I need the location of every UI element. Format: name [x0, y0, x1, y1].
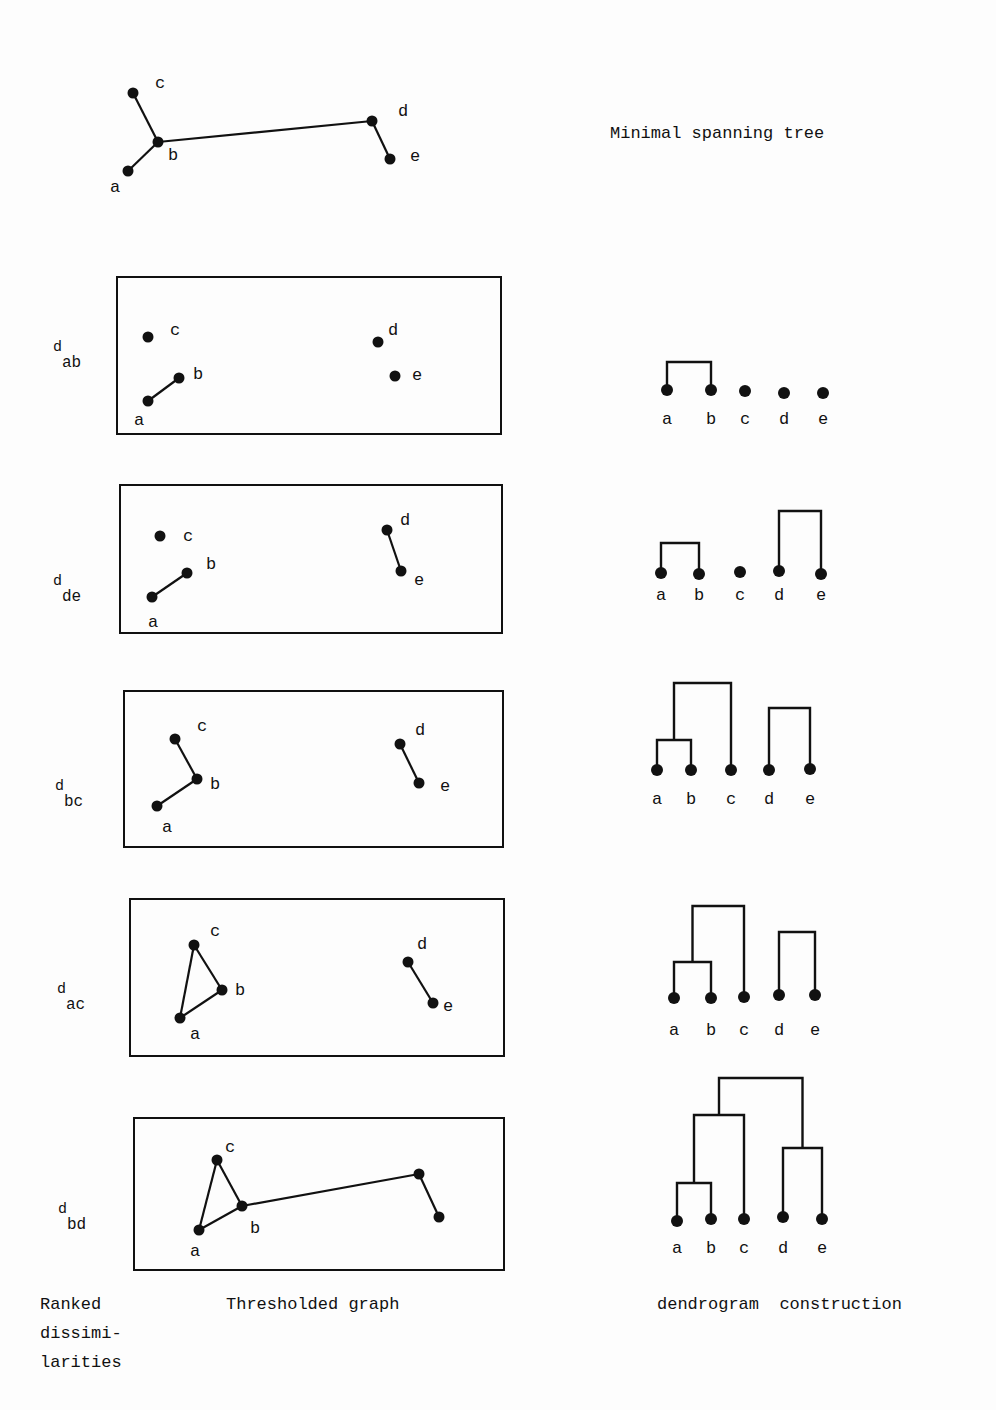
leaf-label-c: c: [726, 790, 736, 809]
threshold-label-ab: dab: [53, 338, 81, 356]
edge-ac: [199, 1160, 217, 1230]
leaf-label-c: c: [739, 1021, 749, 1040]
edge-bd: [242, 1174, 419, 1206]
edge-bc: [175, 739, 197, 779]
diagram-canvas: abcde abcdeabcdeabcdeabcdeabc abcdeabcde…: [0, 0, 996, 1410]
leaf-e: [809, 989, 821, 1001]
leaf-a: [671, 1215, 683, 1227]
merge-ab-c: [693, 906, 745, 997]
dendrogram-bd: abcde: [671, 1078, 828, 1258]
dissimilarity-subscript: bc: [64, 793, 83, 811]
leaf-e: [804, 763, 816, 775]
leaf-label-d: d: [764, 790, 774, 809]
leaf-label-d: d: [778, 1239, 788, 1258]
leaf-c: [738, 991, 750, 1003]
threshold-panel-ab: abcde: [117, 277, 501, 434]
leaf-b: [693, 568, 705, 580]
thresholded-graph-de: abcde: [147, 511, 425, 632]
leaf-c: [738, 1213, 750, 1225]
leaf-label-e: e: [818, 410, 828, 429]
node-a: [143, 396, 154, 407]
footer-dendrogram-construction: dendrogram construction: [657, 1290, 902, 1319]
dissimilarity-symbol: d: [58, 1201, 67, 1218]
dissimilarity-subscript: ac: [66, 996, 85, 1014]
node-c: [189, 940, 200, 951]
dissimilarity-subscript: bd: [67, 1216, 86, 1234]
edge-bc: [217, 1160, 242, 1206]
node-label-c: c: [225, 1138, 235, 1157]
node-label-a: a: [148, 613, 158, 632]
node-c: [128, 88, 139, 99]
node-label-b: b: [235, 981, 245, 1000]
leaf-b: [685, 764, 697, 776]
leaf-a: [655, 567, 667, 579]
edge-bd: [158, 121, 372, 142]
leaf-c: [739, 385, 751, 397]
edge-ab: [180, 990, 222, 1018]
merge-a-b: [657, 740, 691, 770]
leaf-a: [661, 384, 673, 396]
node-a: [152, 801, 163, 812]
dissimilarity-symbol: d: [57, 981, 66, 998]
leaf-label-a: a: [652, 790, 662, 809]
node-a: [194, 1225, 205, 1236]
node-d: [382, 525, 393, 536]
dissimilarity-subscript: ab: [62, 354, 81, 372]
panel-frame: [124, 691, 503, 847]
leaf-d: [773, 989, 785, 1001]
node-b: [153, 137, 164, 148]
node-label-b: b: [193, 365, 203, 384]
edge-de: [400, 744, 419, 783]
merge-abc-de: [719, 1078, 803, 1148]
dissimilarity-symbol: d: [55, 778, 64, 795]
merge-ab-c: [694, 1115, 744, 1219]
node-label-c: c: [170, 321, 180, 340]
node-e: [396, 566, 407, 577]
threshold-label-ac: dac: [57, 980, 85, 998]
node-a: [175, 1013, 186, 1024]
merge-a-b: [677, 1183, 711, 1221]
panel-frame: [120, 485, 502, 633]
node-b: [217, 985, 228, 996]
footer-line-3: larities: [40, 1353, 122, 1372]
mst-graph: abcde: [110, 74, 420, 197]
dissimilarity-symbol: d: [53, 573, 62, 590]
node-d: [367, 116, 378, 127]
leaf-e: [815, 568, 827, 580]
leaf-d: [778, 387, 790, 399]
node-b: [192, 774, 203, 785]
leaf-label-a: a: [669, 1021, 679, 1040]
node-label-e: e: [412, 366, 422, 385]
edge-bc: [133, 93, 158, 142]
thresholded-graph-ab: abcde: [134, 321, 422, 430]
node-c: [143, 332, 154, 343]
leaf-d: [763, 764, 775, 776]
thresholded-graphs: abcdeabcdeabcdeabcdeabc: [117, 277, 504, 1270]
leaf-c: [734, 566, 746, 578]
node-label-e: e: [440, 777, 450, 796]
node-label-b: b: [168, 146, 178, 165]
leaf-a: [651, 764, 663, 776]
edge-ab: [128, 142, 158, 171]
leaf-label-b: b: [706, 1239, 716, 1258]
merge-d-e: [769, 708, 810, 770]
edge-ab: [148, 378, 179, 401]
node-label-e: e: [414, 571, 424, 590]
leaf-label-d: d: [774, 586, 784, 605]
node-label-c: c: [210, 922, 220, 941]
node-label-b: b: [250, 1219, 260, 1238]
leaf-c: [725, 764, 737, 776]
merge-d-e: [779, 511, 821, 574]
leaf-e: [816, 1213, 828, 1225]
dissimilarity-subscript: de: [62, 588, 81, 606]
node-label-e: e: [443, 997, 453, 1016]
dissimilarity-symbol: d: [53, 339, 62, 356]
threshold-panel-ac: abcde: [130, 899, 504, 1056]
thresholded-graph-bd: abc: [190, 1138, 445, 1261]
dendrogram-bc: abcde: [651, 683, 816, 809]
edge-ab: [199, 1206, 242, 1230]
node-d: [395, 739, 406, 750]
leaf-label-c: c: [740, 410, 750, 429]
dendrogram-de: abcde: [655, 511, 827, 605]
node-label-e: e: [410, 147, 420, 166]
